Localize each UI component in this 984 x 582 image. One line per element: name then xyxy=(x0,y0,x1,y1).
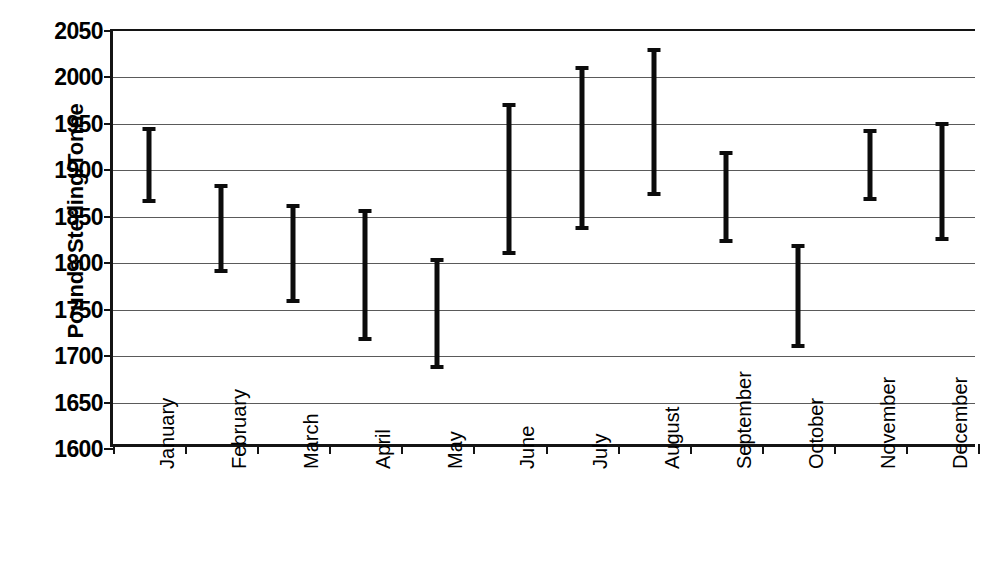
gridline xyxy=(113,170,975,171)
gridline xyxy=(113,310,975,311)
range-bar xyxy=(939,122,944,241)
range-bar xyxy=(291,204,296,303)
x-axis-label: November xyxy=(877,377,900,469)
price-range-chart: Pounds Sterling/Tonne 205020001950190018… xyxy=(0,0,984,582)
range-bar xyxy=(435,258,440,369)
x-axis-tick xyxy=(690,444,692,454)
x-axis-tick xyxy=(329,444,331,454)
x-axis-tick xyxy=(401,444,403,454)
x-axis-label: October xyxy=(805,398,828,469)
range-bar xyxy=(147,127,152,203)
range-bar xyxy=(723,151,728,243)
y-axis-tick xyxy=(104,216,113,218)
y-axis-tick xyxy=(104,355,113,357)
x-axis-label: March xyxy=(300,413,323,469)
gridline xyxy=(113,124,975,125)
x-axis-label: June xyxy=(516,426,539,469)
plot-area: 2050200019501900185018001750170016501600 xyxy=(110,29,975,447)
x-axis-tick xyxy=(185,444,187,454)
y-axis-tick xyxy=(104,262,113,264)
y-axis-tick-label: 1950 xyxy=(54,110,103,137)
y-axis-tick xyxy=(104,76,113,78)
gridline xyxy=(113,217,975,218)
y-axis-tick-label: 2050 xyxy=(54,18,103,45)
x-axis-label: May xyxy=(444,431,467,469)
x-axis-label: April xyxy=(372,429,395,469)
x-axis-label: August xyxy=(661,407,684,469)
range-bar xyxy=(219,184,224,272)
x-axis-tick xyxy=(906,444,908,454)
x-axis-tick xyxy=(834,444,836,454)
x-axis-tick xyxy=(257,444,259,454)
y-axis-tick xyxy=(104,123,113,125)
x-axis-tick xyxy=(762,444,764,454)
x-axis-label: January xyxy=(156,398,179,469)
gridline xyxy=(113,263,975,264)
range-bar xyxy=(507,103,512,254)
range-bar xyxy=(579,66,584,229)
y-axis-tick-label: 2000 xyxy=(54,64,103,91)
range-bar xyxy=(363,209,368,341)
x-axis-tick xyxy=(618,444,620,454)
y-axis-tick-label: 1850 xyxy=(54,203,103,230)
y-axis-tick-label: 1700 xyxy=(54,343,103,370)
x-axis-tick xyxy=(113,444,115,454)
y-axis-tick xyxy=(104,402,113,404)
x-axis-tick xyxy=(473,444,475,454)
gridline xyxy=(113,356,975,357)
y-axis-tick-label: 1900 xyxy=(54,157,103,184)
x-axis-tick xyxy=(546,444,548,454)
y-axis-tick xyxy=(104,309,113,311)
y-axis-tick xyxy=(104,30,113,32)
range-bar xyxy=(651,48,656,197)
x-axis-label: December xyxy=(949,377,972,469)
y-axis-tick xyxy=(104,448,113,450)
y-axis-tick-label: 1800 xyxy=(54,250,103,277)
y-axis-tick-label: 1650 xyxy=(54,389,103,416)
gridline xyxy=(113,77,975,78)
range-bar xyxy=(867,129,872,201)
x-axis-label: February xyxy=(228,389,251,469)
y-axis-tick xyxy=(104,169,113,171)
y-axis-tick-label: 1750 xyxy=(54,296,103,323)
x-axis-label: September xyxy=(733,371,756,469)
y-axis-tick-label: 1600 xyxy=(54,436,103,463)
range-bar xyxy=(795,244,800,348)
x-axis-tick xyxy=(978,444,980,454)
x-axis-label: July xyxy=(589,433,612,469)
